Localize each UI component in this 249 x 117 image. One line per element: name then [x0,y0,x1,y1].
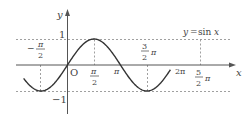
pi-symbol: π [204,74,211,83]
numerator-pi: π [37,40,44,49]
numerator-three: 3 [142,42,147,51]
denominator-two: 2 [92,78,97,87]
origin-label: O [70,67,78,78]
tick-label-pi: π [113,67,120,76]
tick-label-three-half-pi: 3 2 π [141,42,157,62]
numerator-five: 5 [196,68,201,77]
y-one-label: 1 [59,29,65,40]
curve-label-sin: sin [198,27,211,37]
y-minus-one-label: −1 [52,94,67,105]
x-axis-label: x [236,67,242,78]
minus-sign: − [27,43,35,53]
curve-label-x: x [214,27,219,37]
sine-graph: y x O 1 −1 − π 2 π 2 π 3 2 π 2π [0,0,249,117]
curve-label-eq: = [190,27,198,37]
y-axis-label: y [56,9,63,20]
tick-label-half-pi: π 2 [90,67,99,87]
tick-label-five-half-pi: 5 2 π [195,68,211,88]
x-axis-arrow-icon [229,63,236,68]
denominator-two: 2 [196,79,201,88]
tick-label-neg-half-pi: − π 2 [27,40,45,60]
y-axis-arrow-icon [65,9,70,16]
pi-symbol: π [150,48,157,57]
denominator-two: 2 [38,51,43,60]
axes [16,9,236,114]
curve-label-y: y [182,27,189,37]
curve-label: y = sin x [182,27,219,37]
numerator-pi: π [90,67,97,76]
denominator-two: 2 [142,53,147,62]
tick-label-two-pi: 2π [175,67,185,76]
